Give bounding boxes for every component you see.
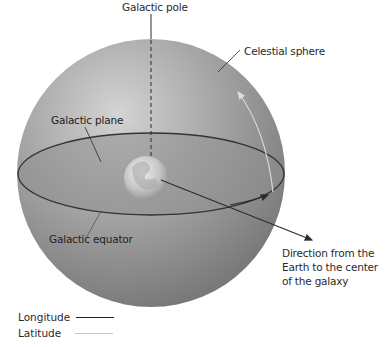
earth-icon xyxy=(124,156,168,200)
legend-latitude: Latitude xyxy=(18,327,113,339)
legend-label-longitude: Longitude xyxy=(18,311,70,323)
celestial-sphere-diagram xyxy=(0,0,385,347)
label-celestial-sphere: Celestial sphere xyxy=(244,44,325,58)
label-galactic-pole: Galactic pole xyxy=(122,0,188,14)
label-galactic-equator: Galactic equator xyxy=(49,232,133,246)
label-direction: Direction from the Earth to the center o… xyxy=(282,246,385,288)
label-galactic-plane: Galactic plane xyxy=(51,113,123,127)
legend-label-latitude: Latitude xyxy=(18,327,61,339)
legend-swatch-latitude xyxy=(75,333,113,334)
legend-swatch-longitude xyxy=(76,317,114,318)
legend-longitude: Longitude xyxy=(18,311,114,323)
